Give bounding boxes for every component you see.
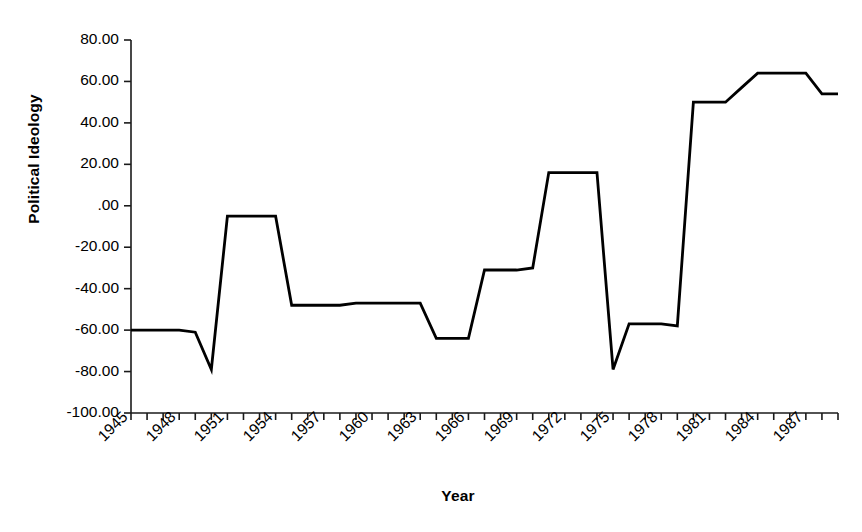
x-axis-title: Year xyxy=(0,487,862,505)
y-tick-label: -80.00 xyxy=(75,363,119,379)
chart-container: 80.0060.0040.0020.00.00-20.00-40.00-60.0… xyxy=(0,0,862,532)
y-tick-label: 20.00 xyxy=(80,155,119,171)
y-tick-label: -20.00 xyxy=(75,238,119,254)
y-tick-label: .00 xyxy=(97,197,119,213)
y-axis-ticks xyxy=(124,40,131,413)
y-tick-label: 40.00 xyxy=(80,114,119,130)
line-chart-plot xyxy=(0,0,862,532)
x-axis-title-text: Year xyxy=(441,487,475,504)
y-axis-title: Political Ideology xyxy=(25,49,43,269)
y-tick-label: 60.00 xyxy=(80,72,119,88)
x-axis-ticks xyxy=(131,413,838,420)
series-group xyxy=(131,73,838,369)
y-tick-label: 80.00 xyxy=(80,31,119,47)
series-line-political-ideology xyxy=(131,73,838,369)
y-tick-label: -60.00 xyxy=(75,321,119,337)
y-tick-label: -40.00 xyxy=(75,280,119,296)
